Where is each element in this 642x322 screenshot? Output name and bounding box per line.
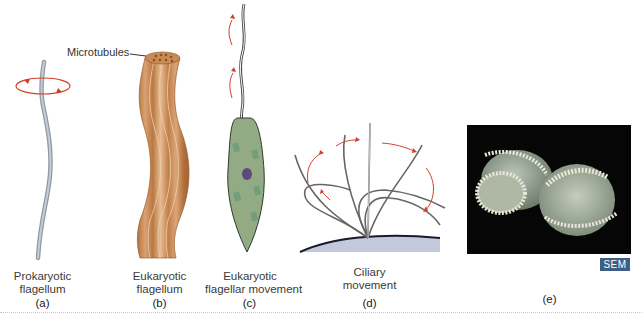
label-a: (a) [30, 297, 55, 309]
caption-b: Eukaryotic flagellum [122, 270, 197, 296]
movement-arrow-icon [229, 20, 233, 98]
label-d: (d) [357, 297, 382, 309]
caption-d: Ciliary movement [332, 266, 407, 292]
caption-c: Eukaryotic flagellar movement [205, 270, 295, 296]
label-b: (b) [147, 297, 172, 309]
ciliates-micrograph-image [467, 125, 631, 254]
panel-d-ciliary-movement: Ciliary movement (d) [290, 0, 450, 322]
caption-d-line2: movement [332, 279, 407, 292]
caption-a-line2: flagellum [5, 283, 80, 296]
microtubules-callout: Microtubules [67, 46, 129, 58]
nucleus [242, 168, 252, 180]
sem-micrograph [467, 125, 631, 254]
caption-c-line2: flagellar movement [205, 283, 295, 296]
caption-d-line1: Ciliary [332, 266, 407, 279]
sem-badge: SEM [600, 258, 630, 271]
caption-a-line1: Prokaryotic [5, 270, 80, 283]
caption-c-line1: Eukaryotic [205, 270, 295, 283]
caption-a: Prokaryotic flagellum [5, 270, 80, 296]
divider-line [0, 312, 642, 313]
caption-b-line1: Eukaryotic [122, 270, 197, 283]
label-c: (c) [237, 297, 262, 309]
label-e: (e) [537, 293, 562, 305]
caption-b-line2: flagellum [122, 283, 197, 296]
